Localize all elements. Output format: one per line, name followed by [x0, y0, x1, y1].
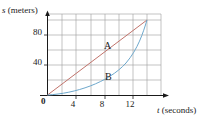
curve-label-a: A — [104, 41, 111, 51]
x-tick-label-8: 8 — [95, 100, 109, 109]
x-tick-label-12: 12 — [123, 100, 137, 109]
graph-figure: s (meters) t (seconds) 80 40 0 4 8 12 A … — [0, 0, 204, 124]
y-axis — [45, 11, 50, 96]
y-tick-label-40: 40 — [24, 58, 42, 67]
x-axis-unit: (seconds) — [160, 105, 197, 115]
x-axis-title: t (seconds) — [157, 106, 196, 115]
curve-label-b: B — [105, 72, 112, 82]
x-tick-marks — [76, 96, 133, 100]
x-tick-label-0: 0 — [41, 97, 46, 106]
y-tick-label-80: 80 — [24, 28, 42, 37]
y-tick-marks — [44, 35, 48, 65]
x-tick-label-4: 4 — [66, 100, 80, 109]
y-axis-title: s (meters) — [2, 6, 38, 15]
y-axis-unit: (meters) — [6, 5, 38, 15]
grid-vertical — [62, 14, 161, 95]
curve-a — [48, 20, 148, 95]
